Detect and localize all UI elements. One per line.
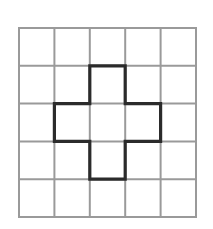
figure-background [0, 0, 213, 229]
figure-container [0, 0, 213, 229]
grid-figure [0, 0, 213, 229]
